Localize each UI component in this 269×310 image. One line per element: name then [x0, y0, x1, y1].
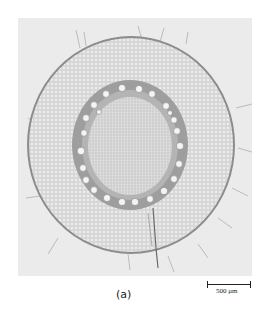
root-cross-section-image	[18, 18, 252, 276]
figure-caption: (a)	[116, 288, 131, 301]
micrograph-panel	[18, 18, 252, 276]
scale-bar-label: 500 μm	[216, 287, 237, 295]
